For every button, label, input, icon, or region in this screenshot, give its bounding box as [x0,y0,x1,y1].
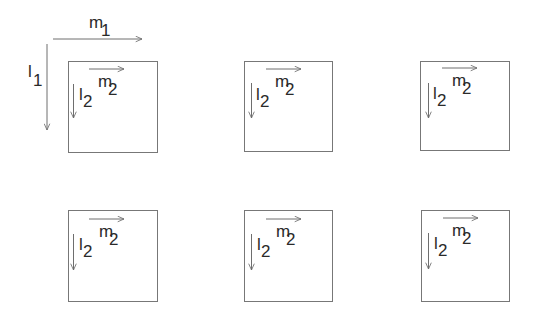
l2-subscript: 2 [260,92,269,111]
block-square [69,62,158,153]
block-r1-c1: m 2 l 2 [69,62,158,153]
block-r1-c2: m 2 l 2 [245,62,333,152]
l2-subscript: 2 [437,91,446,110]
l1-subscript: 1 [33,71,42,90]
m1-subscript: 1 [101,21,110,40]
m2-subscript: 2 [108,80,117,99]
m2-subscript: 2 [286,230,295,249]
outer-l-dimension: l 1 [28,44,47,130]
l2-subscript: 2 [261,242,270,261]
block-r1-c3: m 2 l 2 [421,62,510,151]
l2-subscript: 2 [438,241,447,260]
l1-label: l [28,62,32,81]
outer-m-dimension: m 1 [53,13,142,40]
m2-subscript: 2 [462,229,471,248]
l2-subscript: 2 [83,242,92,261]
m2-subscript: 2 [109,230,118,249]
block-r2-c3: m 2 l 2 [422,211,510,302]
block-tiling-diagram: m 1 l 1 m 2 l 2 m 2 l 2 m 2 l 2 [0,0,533,311]
m2-subscript: 2 [285,80,294,99]
l2-subscript: 2 [83,92,92,111]
block-r2-c1: m 2 l 2 [69,211,158,302]
block-r2-c2: m 2 l 2 [245,211,333,302]
m2-subscript: 2 [462,79,471,98]
